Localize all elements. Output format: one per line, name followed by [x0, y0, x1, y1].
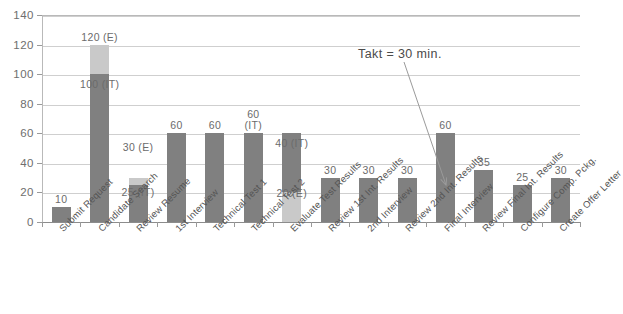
x-axis-tick-mark [119, 222, 120, 227]
y-axis-tick-label: 80 [20, 98, 34, 110]
gridline [43, 105, 580, 106]
gridline [43, 16, 580, 17]
x-axis-tick-mark [157, 222, 158, 227]
x-axis-tick-mark [503, 222, 504, 227]
bar-segment [205, 133, 224, 222]
x-axis-tick-mark [273, 222, 274, 227]
x-axis-tick-mark [80, 222, 81, 227]
y-axis-tick-mark [37, 15, 42, 16]
x-axis-tick-mark [196, 222, 197, 227]
bar-value-label: 120 (E) [70, 32, 130, 43]
bar[interactable] [205, 133, 224, 222]
gridline [43, 75, 580, 76]
x-axis-tick-mark [42, 222, 43, 227]
x-axis-tick-mark [542, 222, 543, 227]
gridline [43, 46, 580, 47]
y-axis-tick-label: 0 [27, 216, 34, 228]
takt-annotation: Takt = 30 min. [358, 47, 442, 61]
bar-value-label: 100 (IT) [70, 79, 130, 90]
y-axis-tick-mark [37, 104, 42, 105]
y-axis-tick-label: 40 [20, 157, 34, 169]
bar-value-label: 30 (E) [108, 142, 168, 153]
x-axis-tick-mark [388, 222, 389, 227]
y-axis-tick-label: 60 [20, 127, 34, 139]
y-axis-tick-label: 120 [13, 39, 34, 51]
gridline [43, 134, 580, 135]
y-axis-tick-mark [37, 133, 42, 134]
x-axis-tick-mark [465, 222, 466, 227]
x-axis-tick-mark [234, 222, 235, 227]
x-axis-tick-mark [580, 222, 581, 227]
bar-value-label: 40 (IT) [262, 138, 322, 149]
bar-segment [90, 45, 109, 75]
y-axis-tick-label: 100 [13, 68, 34, 80]
y-axis-tick-label: 140 [13, 9, 34, 21]
y-axis-tick-mark [37, 163, 42, 164]
y-axis-tick-mark [37, 74, 42, 75]
x-axis-tick-mark [311, 222, 312, 227]
bar-value-label: 60 (IT) [223, 109, 283, 131]
y-axis-tick-mark [37, 45, 42, 46]
bar-value-label: 60 [416, 120, 476, 131]
x-axis-tick-mark [426, 222, 427, 227]
x-axis-tick-mark [349, 222, 350, 227]
